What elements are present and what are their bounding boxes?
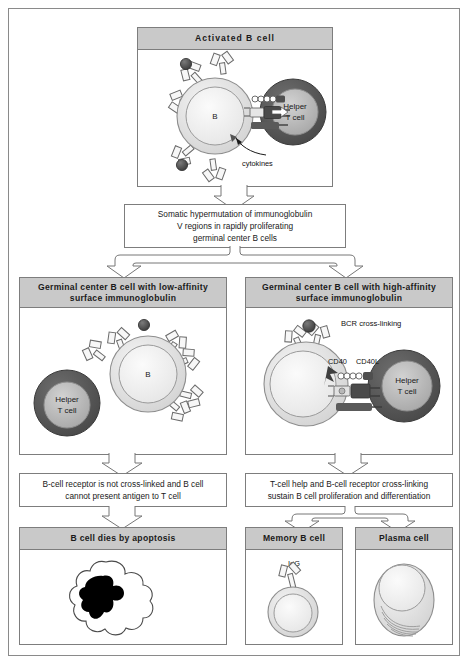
cd40-cd40l-complex [338, 372, 373, 380]
textbox-left-outcome: B-cell receptor is not cross-linked and … [19, 473, 227, 507]
antigen-icon [176, 159, 187, 170]
igg-surface-receptor-icon [276, 561, 304, 591]
panel-body-apoptosis [20, 550, 226, 644]
high-affinity-illustration: BCR cross-linking [246, 308, 452, 454]
low-affinity-header-line2: surface immunoglobulin [70, 293, 176, 304]
b-cell-nucleus [270, 351, 336, 417]
apoptotic-cell-illustration [20, 550, 226, 644]
apoptosis-header-text: B cell dies by apoptosis [70, 533, 175, 544]
panel-body-high-affinity: BCR cross-linking [246, 308, 452, 454]
plasma-cell-nucleus [379, 565, 425, 611]
free-antigen-icon [138, 319, 149, 330]
hypermutation-line1: Somatic hypermutation of immunoglobulin [158, 208, 313, 220]
t-cell-label-line1: Helper [55, 395, 79, 404]
panel-header-activated-b-cell: Activated B cell [138, 28, 332, 50]
left-outcome-line2: cannot present antigen to T cell [65, 490, 180, 502]
panel-body-activated-b-cell: B Helper T cell [138, 50, 332, 186]
right-outcome-line1: T-cell help and B-cell receptor cross-li… [270, 478, 428, 490]
textbox-right-outcome: T-cell help and B-cell receptor cross-li… [245, 473, 453, 507]
panel-header-high-affinity: Germinal center B cell with high-affinit… [246, 278, 452, 308]
t-cell-label-line1: Helper [395, 376, 419, 385]
low-affinity-header-line1: Germinal center B cell with low-affinity [38, 282, 208, 293]
panel-activated-b-cell: Activated B cell [137, 27, 333, 187]
cd40-label: CD40 [328, 357, 347, 366]
panel-high-affinity-b-cell: Germinal center B cell with high-affinit… [245, 277, 453, 455]
panel-body-plasma-cell [356, 550, 452, 644]
hypermutation-line2: V regions in rapidly proliferating [177, 220, 293, 232]
b-cell-label: B [145, 370, 150, 379]
figure-frame: Activated B cell [8, 8, 460, 656]
hypermutation-line3: germinal center B cells [193, 232, 277, 244]
arrow-branch-to-germinal-centers [57, 246, 413, 278]
panel-low-affinity-b-cell: Germinal center B cell with low-affinity… [19, 277, 227, 455]
bcr-cross-linking-label: BCR cross-linking [341, 319, 401, 328]
panel-body-memory-b-cell: IgG [246, 550, 342, 644]
t-cell-nucleus [382, 361, 432, 411]
right-outcome-line2: sustain B cell proliferation and differe… [268, 490, 431, 502]
panel-header-memory-b-cell: Memory B cell [246, 528, 342, 550]
high-affinity-header-line2: surface immunoglobulin [296, 293, 402, 304]
left-outcome-line1: B-cell receptor is not cross-linked and … [43, 478, 204, 490]
plasma-cell-illustration [356, 550, 452, 644]
cd40l-label: CD40L [356, 357, 379, 366]
antigen-icon [180, 58, 191, 69]
t-cell-nucleus [44, 382, 90, 428]
panel-header-plasma-cell: Plasma cell [356, 528, 452, 550]
panel-apoptosis: B cell dies by apoptosis [19, 527, 227, 645]
t-cell-label-line2: T cell [286, 113, 305, 122]
panel-title-text: Activated B cell [195, 33, 275, 44]
cytokines-label: cytokines [242, 159, 273, 168]
memory-b-cell-header-text: Memory B cell [263, 533, 325, 544]
cd40-cd40l-link [252, 96, 285, 103]
panel-plasma-cell: Plasma cell [355, 527, 453, 645]
textbox-somatic-hypermutation: Somatic hypermutation of immunoglobulin … [124, 204, 346, 248]
t-cell-label-line2: T cell [58, 406, 77, 415]
t-cell-label-line2: T cell [398, 387, 417, 396]
low-affinity-illustration: B Helper T cell [20, 308, 226, 454]
high-affinity-header-line1: Germinal center B cell with high-affinit… [262, 282, 436, 293]
b-cell-label: B [212, 112, 217, 121]
activated-b-cell-illustration: B Helper T cell [138, 50, 332, 186]
crosslinking-antigen-icon [303, 320, 315, 332]
panel-memory-b-cell: Memory B cell IgG [245, 527, 343, 645]
plasma-cell-header-text: Plasma cell [379, 533, 429, 544]
panel-body-low-affinity: B Helper T cell [20, 308, 226, 454]
panel-header-apoptosis: B cell dies by apoptosis [20, 528, 226, 550]
memory-cell-nucleus [274, 594, 312, 632]
memory-b-cell-illustration: IgG [246, 550, 342, 644]
panel-header-low-affinity: Germinal center B cell with low-affinity… [20, 278, 226, 308]
